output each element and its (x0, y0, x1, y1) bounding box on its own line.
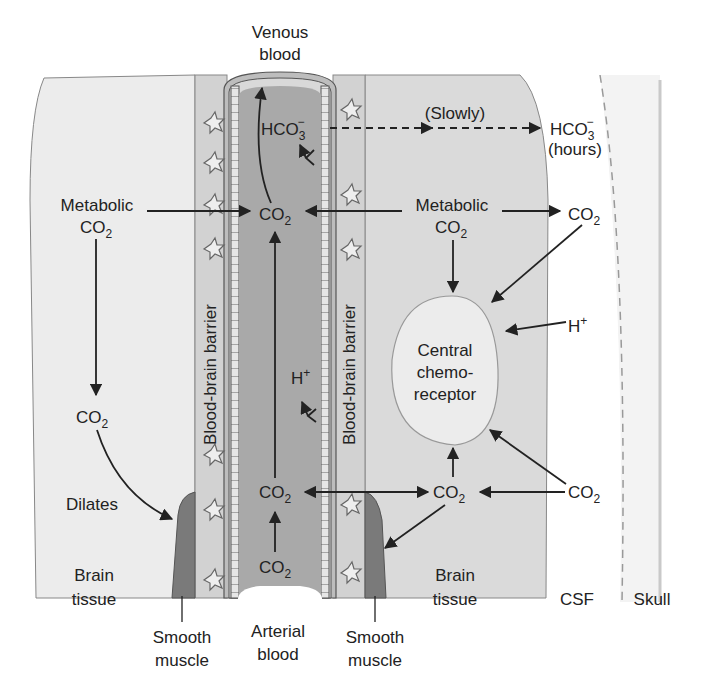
label-central: Central (418, 341, 473, 360)
label-arterial: Arterial (251, 622, 305, 641)
label-hours: (hours) (548, 140, 602, 159)
hco3-vessel: HCO3− (261, 115, 306, 143)
label-bbb-left: Blood-brain barrier (201, 304, 220, 445)
endothelium-right (321, 86, 329, 598)
label-arterial-blood: blood (257, 645, 299, 664)
label-tissue-left: tissue (72, 590, 116, 609)
label-skull: Skull (634, 590, 671, 609)
label-venous: Venous (252, 23, 309, 42)
label-smooth-left: Smooth (153, 628, 212, 647)
label-receptor: receptor (414, 385, 477, 404)
brain-tissue-left (30, 75, 195, 598)
label-chemo: chemo- (417, 363, 474, 382)
label-muscle-right: muscle (348, 651, 402, 670)
label-metabolic-left: Metabolic (61, 196, 134, 215)
label-metabolic-right: Metabolic (416, 196, 489, 215)
label-tissue-right: tissue (433, 590, 477, 609)
arterial-opening (238, 586, 322, 606)
label-slowly: (Slowly) (425, 104, 485, 123)
label-brain-right: Brain (435, 566, 475, 585)
label-brain-left: Brain (74, 566, 114, 585)
co2-regulation-diagram: Venous blood HCO3− (Slowly) HCO3− (hours… (0, 0, 704, 692)
label-csf: CSF (560, 590, 594, 609)
hco3-csf: HCO3− (550, 115, 595, 143)
label-blood: blood (259, 45, 301, 64)
label-smooth-right: Smooth (346, 628, 405, 647)
label-bbb-right: Blood-brain barrier (340, 304, 359, 445)
vessel-lumen (239, 86, 321, 598)
label-dilates: Dilates (66, 495, 118, 514)
label-muscle-left: muscle (155, 651, 209, 670)
endothelium-left (231, 86, 239, 598)
